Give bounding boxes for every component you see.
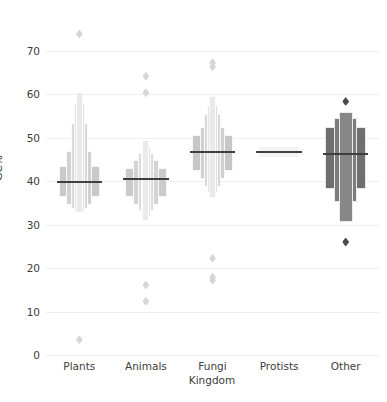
plot-area xyxy=(46,25,379,355)
y-tick-label-10: 10 xyxy=(6,306,40,318)
x-tick-label-other: Other xyxy=(331,360,361,372)
y-axis-label: GC% xyxy=(0,155,4,180)
x-tick-label-animals: Animals xyxy=(125,360,167,372)
y-tick-label-70: 70 xyxy=(6,45,40,57)
x-tick-label-plants: Plants xyxy=(63,360,95,372)
outlier-other-1 xyxy=(342,238,349,247)
y-tick-label-20: 20 xyxy=(6,262,40,274)
x-tick-label-protists: Protists xyxy=(260,360,299,372)
gridline-y-0 xyxy=(46,355,379,356)
median-line-other xyxy=(323,153,368,155)
x-axis-label: Kingdom xyxy=(189,374,235,386)
y-tick-label-30: 30 xyxy=(6,219,40,231)
y-tick-label-50: 50 xyxy=(6,132,40,144)
y-tick-label-60: 60 xyxy=(6,88,40,100)
y-tick-label-0: 0 xyxy=(6,349,40,361)
outlier-other-0 xyxy=(342,97,349,106)
boxen-level-other-2 xyxy=(339,112,353,222)
boxen-group-other xyxy=(46,25,379,355)
gc-content-boxen-chart: GC% Kingdom 010203040506070PlantsAnimals… xyxy=(0,0,387,402)
x-tick-label-fungi: Fungi xyxy=(198,360,226,372)
y-tick-label-40: 40 xyxy=(6,175,40,187)
